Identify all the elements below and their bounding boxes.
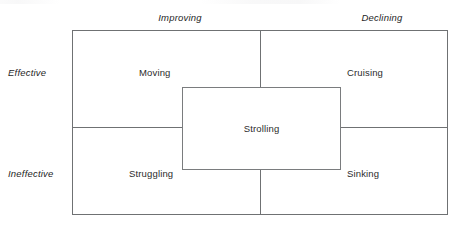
quadrant-matrix-figure: Improving Declining Effective Ineffectiv… (0, 0, 463, 236)
row-header-ineffective: Ineffective (8, 168, 54, 179)
center-overlap-box: Strolling (182, 87, 341, 170)
column-header-declining: Declining (322, 12, 442, 23)
quadrant-label-moving: Moving (139, 67, 171, 78)
quadrant-label-sinking: Sinking (347, 168, 379, 179)
quadrant-label-struggling: Struggling (129, 168, 173, 179)
quadrant-label-cruising: Cruising (347, 67, 383, 78)
center-overlap-label: Strolling (244, 123, 280, 134)
column-header-improving: Improving (120, 12, 240, 23)
row-header-effective: Effective (8, 67, 46, 78)
scan-edge-artifact (0, 0, 463, 4)
